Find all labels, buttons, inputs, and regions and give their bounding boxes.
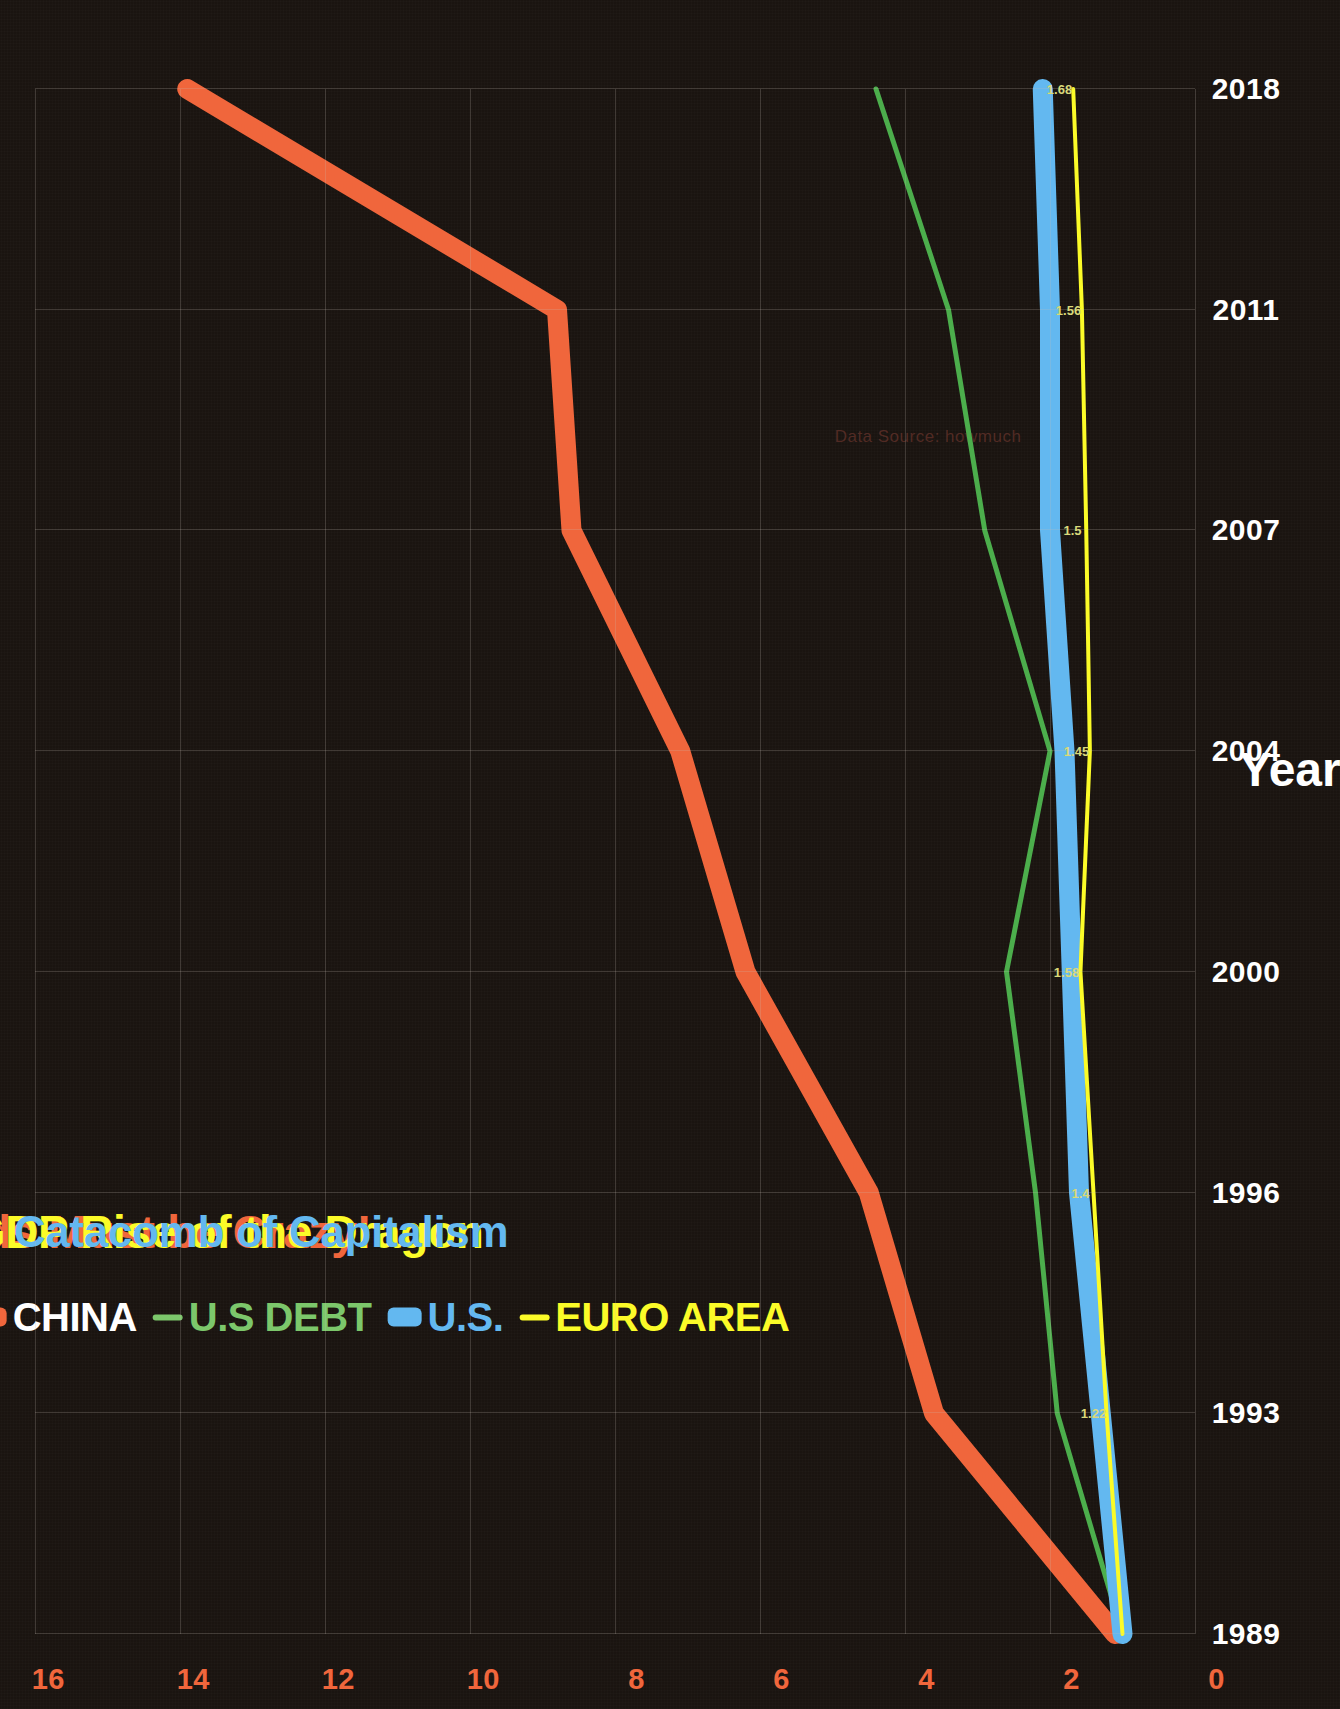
- data-point-label: 1.68: [1047, 82, 1072, 97]
- data-point-label: 1.22: [1080, 1406, 1105, 1421]
- y-axis-tick-label: 0: [1165, 1663, 1225, 1696]
- y-axis-tick-label: 10: [440, 1663, 500, 1696]
- gridline-vertical: [35, 88, 1195, 89]
- gridline-horizontal: [615, 89, 616, 1634]
- gridline-horizontal: [470, 89, 471, 1634]
- x-axis-tick-label: 1996: [1212, 1176, 1281, 1210]
- gridline-horizontal: [35, 89, 36, 1634]
- data-point-label: 1.58: [1054, 964, 1079, 979]
- x-axis-tick-label: 1993: [1212, 1396, 1281, 1430]
- gridline-vertical: [35, 529, 1195, 530]
- y-axis-tick-label: 16: [5, 1663, 65, 1696]
- gridline-vertical: [35, 1633, 1195, 1634]
- gridline-horizontal: [760, 89, 761, 1634]
- x-axis-tick-label: 2000: [1212, 955, 1281, 989]
- y-axis-tick-label: 14: [150, 1663, 210, 1696]
- data-point-label: 1.5: [1064, 523, 1082, 538]
- chart-figure: The Gods Must be Crazy! The GDP Rise of …: [0, 0, 1340, 1709]
- y-axis-tick-label: 4: [875, 1663, 935, 1696]
- y-axis-tick-label: 8: [585, 1663, 645, 1696]
- gridline-vertical: [35, 1192, 1195, 1193]
- x-axis-tick-label: 2007: [1212, 513, 1281, 547]
- data-point-label: 1.4: [1071, 1185, 1089, 1200]
- x-axis-tick-label: 2018: [1212, 72, 1281, 106]
- y-axis-tick-label: 6: [730, 1663, 790, 1696]
- legend-swatch-icon: [0, 1308, 6, 1327]
- gridline-vertical: [35, 750, 1195, 751]
- y-axis-tick-label: 2: [1020, 1663, 1080, 1696]
- data-point-label: 1.45: [1064, 744, 1089, 759]
- x-axis-tick-label: 2004: [1212, 734, 1281, 768]
- y-axis-tick-label: 12: [295, 1663, 355, 1696]
- gridline-horizontal: [905, 89, 906, 1634]
- plot-area: 1.221.41.581.451.51.561.68: [35, 89, 1195, 1634]
- gridline-vertical: [35, 971, 1195, 972]
- gridline-vertical: [35, 1412, 1195, 1413]
- gridline-horizontal: [325, 89, 326, 1634]
- data-point-label: 1.56: [1056, 302, 1081, 317]
- gridline-horizontal: [1050, 89, 1051, 1634]
- x-axis-tick-label: 1989: [1212, 1617, 1281, 1651]
- gridline-horizontal: [180, 89, 181, 1634]
- x-axis-tick-label: 2011: [1212, 293, 1279, 327]
- gridline-horizontal: [1195, 89, 1196, 1634]
- series-line-china: [187, 89, 1115, 1634]
- gridline-vertical: [35, 309, 1195, 310]
